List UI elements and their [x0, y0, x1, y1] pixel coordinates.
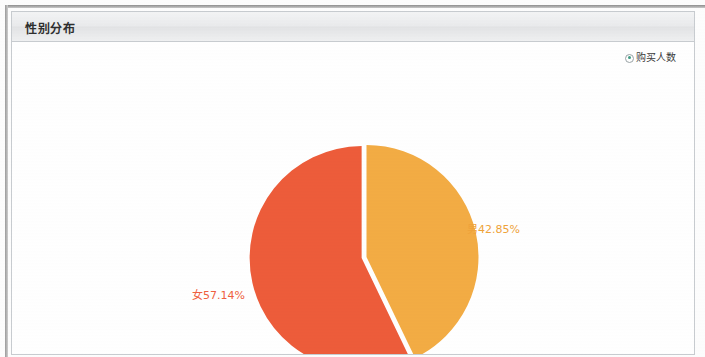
- pie-label-male: 男42.85%: [467, 224, 520, 235]
- pie-label-female: 女57.14%: [192, 290, 245, 301]
- page-left-edge: [5, 5, 8, 357]
- panel-body: 购买人数 男42.85% 女57.14%: [12, 42, 694, 354]
- panel-header: 性别分布: [12, 12, 694, 42]
- pie-chart-svg: [12, 42, 696, 354]
- page-title: 性别分布: [25, 18, 75, 35]
- scanned-page: 性别分布 购买人数 男42.85% 女57.14%: [0, 0, 705, 357]
- pie-chart: 男42.85% 女57.14%: [12, 42, 696, 354]
- page-top-edge: [5, 5, 705, 8]
- gender-distribution-panel: 性别分布 购买人数 男42.85% 女57.14%: [11, 11, 695, 355]
